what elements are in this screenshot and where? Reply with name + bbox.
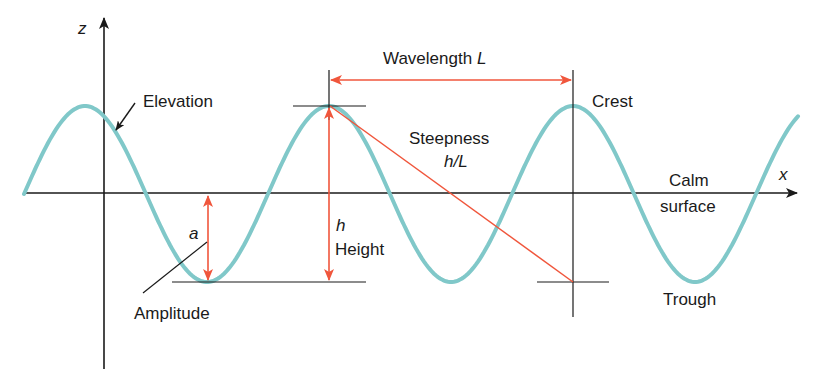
steepness-formula: h/L	[444, 152, 468, 171]
surface-label: surface	[660, 197, 716, 216]
x-axis-label: x	[778, 165, 788, 184]
z-axis-label: z	[77, 19, 87, 38]
amplitude-leader-line	[143, 242, 207, 293]
height-label: Height	[335, 240, 384, 259]
calm-label: Calm	[669, 171, 709, 190]
steepness-label: Steepness	[409, 129, 489, 148]
elevation-pointer-arrow	[116, 103, 135, 130]
amplitude-symbol: a	[189, 224, 198, 243]
elevation-label: Elevation	[143, 92, 213, 111]
height-symbol: h	[336, 216, 345, 235]
amplitude-label: Amplitude	[134, 304, 210, 323]
wavelength-label: Wavelength L	[383, 49, 486, 68]
wave-diagram: z x Elevation Wavelength L Crest Steepne…	[0, 0, 817, 378]
crest-label: Crest	[592, 92, 633, 111]
trough-label: Trough	[663, 290, 716, 309]
